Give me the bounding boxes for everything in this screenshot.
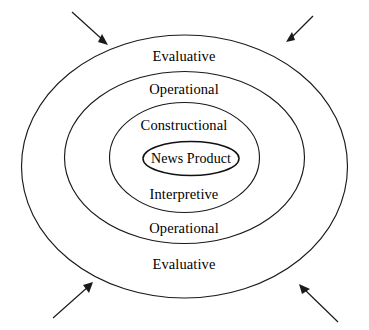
label-news-product: News Product (151, 151, 231, 167)
label-operational-bottom: Operational (149, 220, 219, 237)
label-evaluative-top: Evaluative (152, 48, 215, 65)
label-interpretive: Interpretive (150, 186, 219, 203)
label-evaluative-bottom: Evaluative (152, 256, 215, 273)
arrow-top-right (286, 16, 313, 42)
arrow-bottom-right (299, 284, 338, 322)
label-constructional: Constructional (141, 117, 228, 134)
arrow-bottom-left (53, 282, 93, 318)
label-operational-top: Operational (149, 81, 219, 98)
arrow-top-left (72, 12, 108, 45)
diagram-canvas: Evaluative Operational Constructional Ne… (0, 0, 369, 330)
